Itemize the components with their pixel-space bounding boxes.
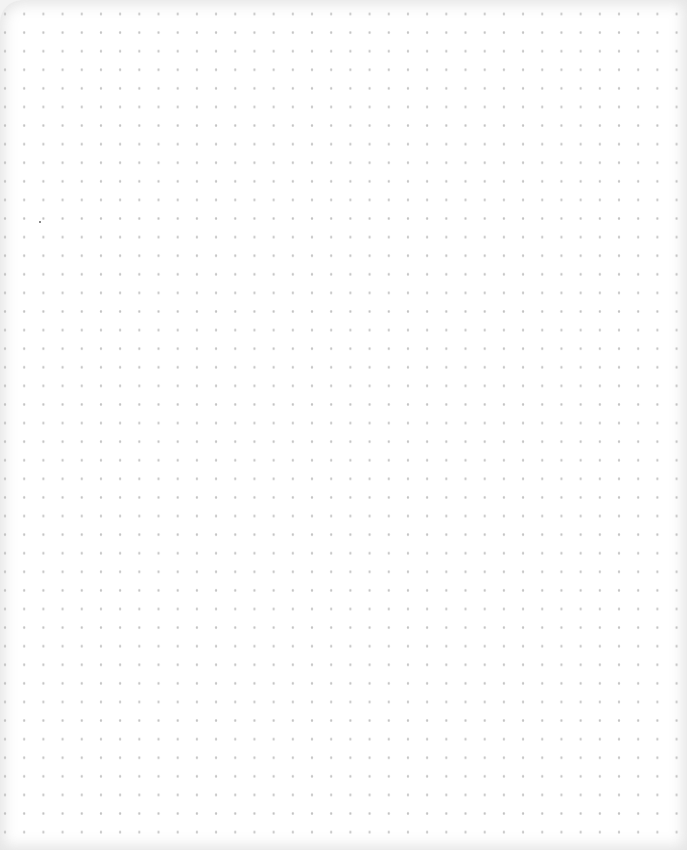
stray-mark (39, 221, 41, 223)
dot-grid (0, 0, 687, 845)
dot-grid-page (0, 0, 687, 850)
